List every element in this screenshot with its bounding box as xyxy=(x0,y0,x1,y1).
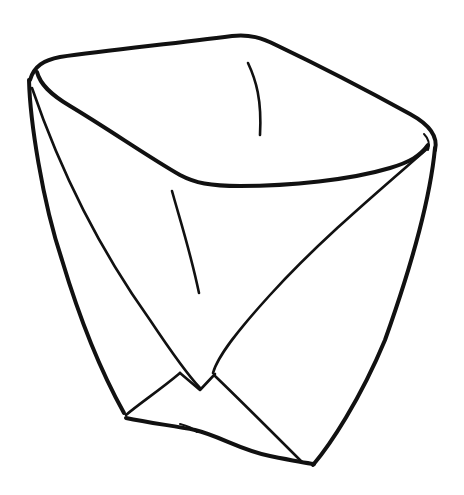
cup-inner-crease xyxy=(248,63,260,135)
cup-bottom-left-fold xyxy=(126,373,180,415)
cup-center-crease xyxy=(172,191,199,293)
cup-bottom-right-fold xyxy=(215,376,302,462)
cup-base-edge xyxy=(126,418,314,464)
cup-rim-front xyxy=(37,72,428,186)
cup-rim-outer xyxy=(30,35,436,150)
folded-cup-drawing xyxy=(0,0,464,495)
illustration-canvas xyxy=(0,0,464,495)
cup-bottom-fold-point xyxy=(180,373,215,390)
